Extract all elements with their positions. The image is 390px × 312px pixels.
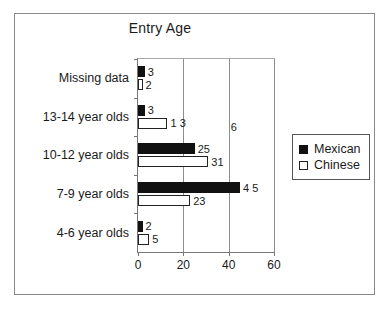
category-label: Missing data [59, 71, 129, 85]
bar-chinese[interactable]: 2 [138, 79, 143, 90]
y-axis-tick [134, 175, 138, 176]
bar-chinese[interactable]: 31 [138, 156, 208, 167]
bar-value-label: 2 [146, 79, 152, 91]
plot-area: 02040604-6 year olds257-9 year olds4 523… [137, 58, 275, 253]
x-axis-tick-label: 40 [222, 258, 235, 272]
category-label: 13-14 year olds [43, 110, 129, 124]
bar-value-label: 4 5 [243, 182, 258, 194]
bar-mexican[interactable]: 2 [138, 221, 143, 232]
filled-square-icon [299, 145, 308, 154]
bar-chinese[interactable]: 23 [138, 195, 190, 206]
legend-item-label: Chinese [314, 158, 360, 172]
bar-value-label: 3 [148, 66, 154, 78]
chart-frame: Entry Age 02040604-6 year olds257-9 year… [14, 13, 375, 295]
x-axis-tick [274, 252, 275, 256]
bar-mexican[interactable]: 25 [138, 143, 195, 154]
hollow-square-icon [299, 161, 308, 170]
chart-title: Entry Age [15, 20, 305, 36]
bar-chinese[interactable]: 1 3 [138, 118, 167, 129]
bar-value-label: 23 [193, 195, 205, 207]
bar-chinese[interactable]: 5 [138, 234, 149, 245]
bar-value-label: 31 [211, 156, 223, 168]
category-row: 13-14 year olds31 3 [138, 98, 274, 137]
bar-value-label: 1 3 [170, 117, 185, 129]
category-label: 7-9 year olds [57, 187, 129, 201]
category-row: 7-9 year olds4 523 [138, 175, 274, 214]
x-axis-tick-label: 60 [267, 258, 280, 272]
x-axis-tick [183, 252, 184, 256]
legend-item-mexican[interactable]: Mexican [299, 142, 361, 156]
bar-value-label: 2 [146, 220, 152, 232]
category-label: 4-6 year olds [57, 226, 129, 240]
y-axis-tick [134, 136, 138, 137]
x-axis-tick-label: 0 [135, 258, 142, 272]
y-axis-tick [134, 59, 138, 60]
legend-item-chinese[interactable]: Chinese [299, 158, 361, 172]
bar-mexican[interactable]: 4 5 [138, 182, 240, 193]
x-axis-tick-label: 20 [177, 258, 190, 272]
bar-mexican[interactable]: 3 [138, 105, 145, 116]
bar-mexican[interactable]: 3 [138, 66, 145, 77]
category-row: 10-12 year olds2531 [138, 136, 274, 175]
legend-item-label: Mexican [314, 142, 361, 156]
category-row: Missing data32 [138, 59, 274, 98]
y-axis-tick [134, 213, 138, 214]
bar-value-label: 25 [198, 143, 210, 155]
category-row: 4-6 year olds25 [138, 213, 274, 252]
bar-value-label: 3 [148, 104, 154, 116]
x-axis-tick [138, 252, 139, 256]
category-label: 10-12 year olds [43, 148, 129, 162]
x-axis-tick [229, 252, 230, 256]
stray-annotation-label: 6 [231, 121, 237, 133]
bar-value-label: 5 [152, 233, 158, 245]
chart-legend: Mexican Chinese [292, 134, 370, 180]
gridline [274, 59, 275, 252]
y-axis-tick [134, 98, 138, 99]
